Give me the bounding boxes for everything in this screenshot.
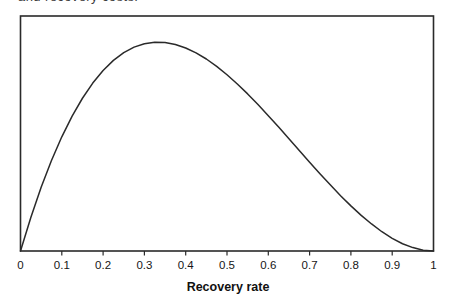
x-axis-tick-label: 0.6 bbox=[248, 259, 288, 271]
x-axis-tick-label: 0.1 bbox=[42, 259, 82, 271]
x-axis-tick-label: 0.2 bbox=[83, 259, 123, 271]
x-axis-tick-label: 1 bbox=[414, 259, 449, 271]
plot-border bbox=[21, 16, 434, 251]
recovery-rate-density-figure: and recovery costs. 00.10.20.30.40.50.60… bbox=[0, 0, 449, 305]
x-axis-tick-label: 0.8 bbox=[331, 259, 371, 271]
x-axis-tick-label: 0 bbox=[1, 259, 41, 271]
x-axis-tick-label: 0.9 bbox=[372, 259, 412, 271]
x-axis-tick-label: 0.7 bbox=[290, 259, 330, 271]
x-axis-tick-label: 0.4 bbox=[166, 259, 206, 271]
x-axis-tick-label: 0.5 bbox=[207, 259, 247, 271]
x-axis-title: Recovery rate bbox=[128, 280, 328, 294]
density-curve bbox=[21, 42, 434, 251]
x-axis-tick-label: 0.3 bbox=[124, 259, 164, 271]
